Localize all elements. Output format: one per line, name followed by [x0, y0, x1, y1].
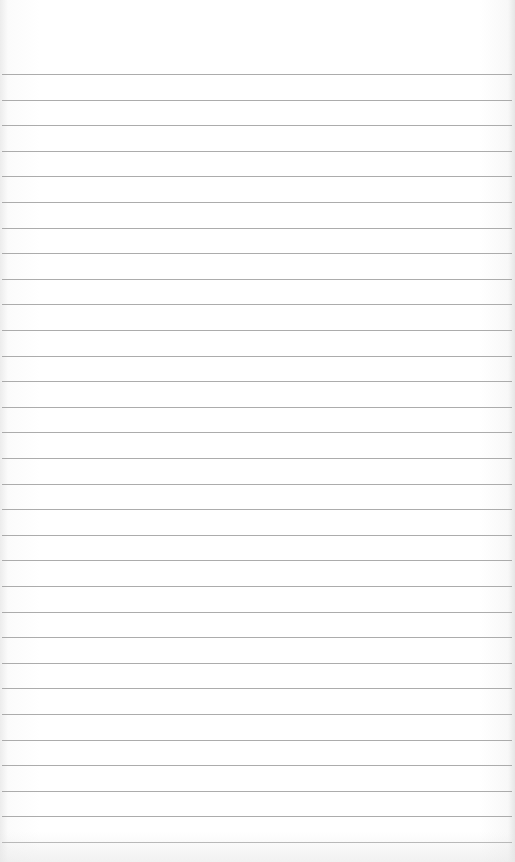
ruled-line: [2, 176, 512, 177]
ruled-line: [2, 484, 512, 485]
ruled-line: [2, 509, 512, 510]
ruled-line: [2, 407, 512, 408]
ruled-line: [2, 688, 512, 689]
ruled-line: [2, 714, 512, 715]
ruled-line: [2, 330, 512, 331]
ruled-line: [2, 560, 512, 561]
ruled-line: [2, 816, 512, 817]
ruled-line: [2, 100, 512, 101]
ruled-line: [2, 253, 512, 254]
ruled-line: [2, 535, 512, 536]
ruled-line: [2, 202, 512, 203]
ruled-line: [2, 612, 512, 613]
ruled-line: [2, 765, 512, 766]
ruled-line: [2, 356, 512, 357]
ruled-line: [2, 842, 512, 843]
ruled-line: [2, 663, 512, 664]
ruled-line: [2, 125, 512, 126]
ruled-line: [2, 458, 512, 459]
ruled-line: [2, 432, 512, 433]
ruled-line: [2, 228, 512, 229]
ruled-line: [2, 791, 512, 792]
ruled-line: [2, 304, 512, 305]
ruled-line: [2, 74, 512, 75]
ruled-line: [2, 586, 512, 587]
lined-paper-sheet: [0, 0, 515, 862]
ruled-line: [2, 740, 512, 741]
ruled-line: [2, 151, 512, 152]
ruled-line: [2, 381, 512, 382]
ruled-line: [2, 279, 512, 280]
ruled-line: [2, 637, 512, 638]
